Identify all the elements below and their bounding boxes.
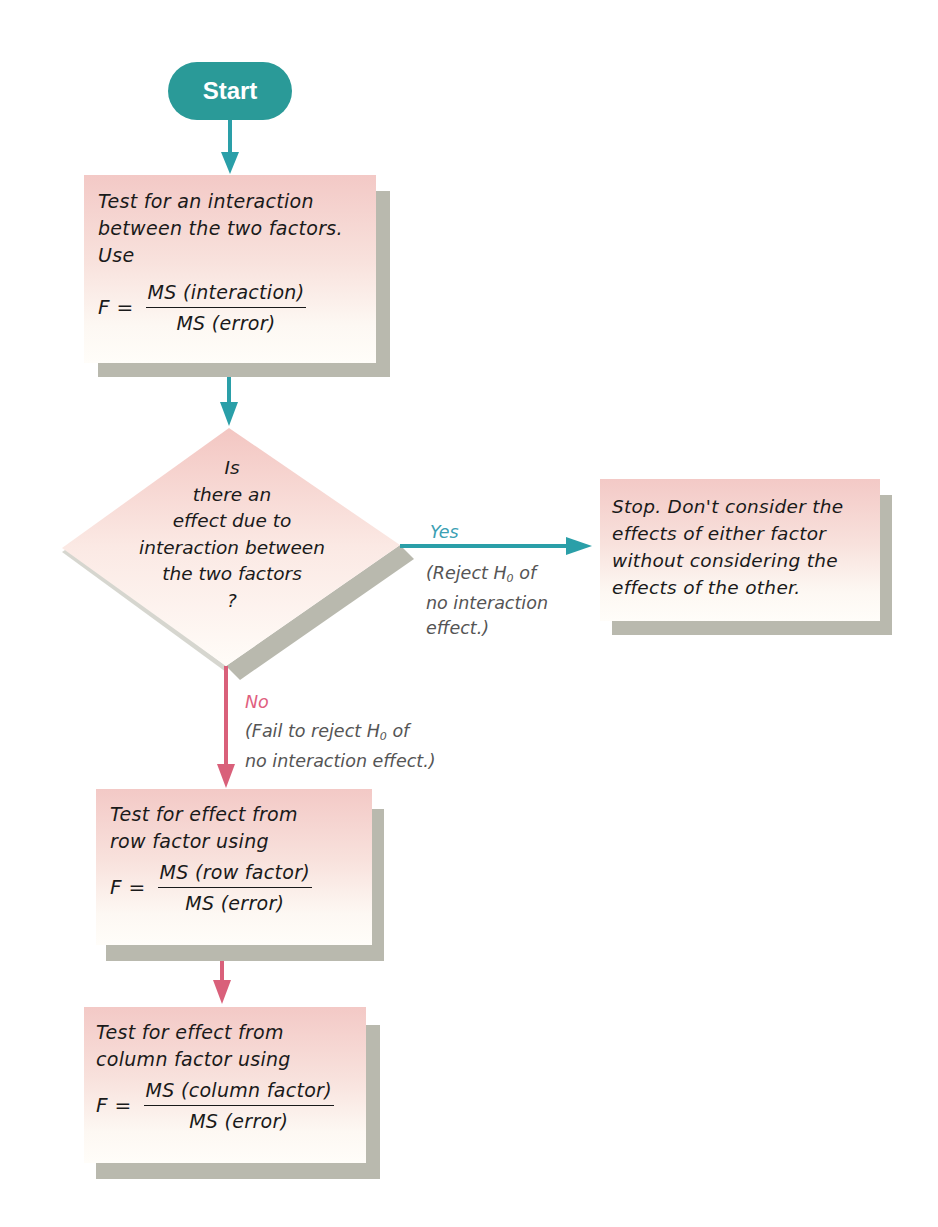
no-label: No <box>245 690 269 715</box>
stop-line: effects of either factor <box>612 520 880 547</box>
yes-note-line3: effect.) <box>426 616 596 641</box>
formula-numerator: MS (row factor) <box>158 859 313 888</box>
decision-question: Is there an effect due to interaction be… <box>92 455 372 614</box>
formula-fraction: MS (row factor) MS (error) <box>158 859 313 916</box>
interaction-test-line1: Test for an interaction <box>98 188 376 215</box>
row-formula: F = MS (row factor) MS (error) <box>110 859 372 916</box>
interaction-test-line2: between the two factors. <box>98 215 376 242</box>
row-factor-box: Test for effect from row factor using F … <box>96 789 384 961</box>
no-note-line2: no interaction effect.) <box>245 749 485 774</box>
arrow-no <box>217 666 235 788</box>
yes-note-line1: (Reject H0 of <box>426 561 596 591</box>
row-line2: row factor using <box>110 828 372 855</box>
decision-line: there an <box>92 482 372 509</box>
decision-line: the two factors <box>92 561 372 588</box>
interaction-emphasis: interaction <box>208 190 314 212</box>
decision-line: ? <box>92 588 372 615</box>
column-line2: column factor using <box>96 1046 366 1073</box>
stop-line: without considering the <box>612 547 880 574</box>
yes-note-line2: no interaction <box>426 591 596 616</box>
row-line1: Test for effect from <box>110 801 372 828</box>
column-line1: Test for effect from <box>96 1019 366 1046</box>
decision-line: Is <box>92 455 372 482</box>
interaction-test-line3: Use <box>98 242 376 269</box>
yes-label: Yes <box>430 520 459 545</box>
formula-numerator: MS (interaction) <box>146 279 307 308</box>
stop-line: Stop. Don't consider the <box>612 493 880 520</box>
no-note-line1: (Fail to reject H0 of <box>245 719 485 749</box>
formula-denominator: MS (error) <box>185 888 284 916</box>
flowchart: Start Test for an interaction between th… <box>0 0 938 1227</box>
arrow-start-to-interaction-test <box>221 118 239 174</box>
formula-fraction: MS (interaction) MS (error) <box>146 279 307 336</box>
formula-denominator: MS (error) <box>176 308 275 336</box>
column-formula: F = MS (column factor) MS (error) <box>96 1077 366 1134</box>
interaction-test-box: Test for an interaction between the two … <box>84 175 390 377</box>
yes-note: (Reject H0 of no interaction effect.) <box>426 561 596 641</box>
formula-fraction: MS (column factor) MS (error) <box>144 1077 334 1134</box>
decision-line: effect due to <box>92 508 372 535</box>
start-terminal: Start <box>168 62 292 120</box>
start-label: Start <box>203 77 258 105</box>
interaction-formula: F = MS (interaction) MS (error) <box>98 279 376 336</box>
stop-box: Stop. Don't consider the effects of eith… <box>600 479 892 635</box>
formula-numerator: MS (column factor) <box>144 1077 334 1106</box>
formula-denominator: MS (error) <box>189 1106 288 1134</box>
formula-lhs: F = <box>96 1092 132 1119</box>
stop-line: effects of the other. <box>612 574 880 601</box>
decision-line: interaction between <box>92 535 372 562</box>
formula-lhs: F = <box>98 294 134 321</box>
arrow-yes <box>400 537 592 555</box>
no-note: (Fail to reject H0 of no interaction eff… <box>245 719 485 774</box>
formula-lhs: F = <box>110 874 146 901</box>
column-factor-box: Test for effect from column factor using… <box>84 1007 380 1179</box>
